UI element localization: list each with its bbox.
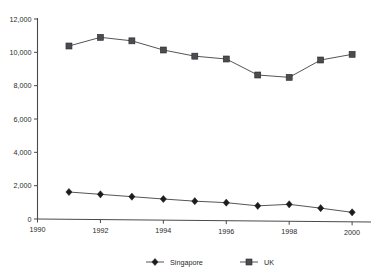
data-point-marker	[318, 205, 324, 212]
data-point-marker	[223, 199, 229, 206]
y-tick-label: 4,000	[14, 148, 32, 157]
data-point-marker	[255, 202, 261, 209]
y-tick-label: 0	[28, 215, 32, 224]
data-point-marker	[286, 74, 292, 80]
series-line	[69, 37, 352, 77]
series-uk	[66, 34, 355, 80]
y-tick-label: 6,000	[14, 115, 32, 124]
legend-label: Singapore	[170, 258, 203, 267]
y-tick-label: 10,000	[10, 48, 32, 57]
data-point-marker	[223, 56, 229, 62]
data-point-marker	[286, 201, 292, 208]
data-point-marker	[318, 57, 324, 63]
series-singapore	[66, 188, 355, 216]
data-point-marker	[160, 195, 166, 202]
data-point-marker	[97, 191, 103, 198]
x-tick-label: 1992	[92, 226, 108, 235]
data-point-marker	[97, 34, 103, 40]
x-axis: 199019921994199619982000	[30, 219, 372, 237]
data-point-marker	[129, 38, 135, 44]
data-point-marker	[160, 47, 166, 53]
y-tick-label: 2,000	[14, 181, 32, 190]
x-tick-label: 1990	[30, 225, 46, 234]
data-point-marker	[152, 258, 158, 265]
legend-label: UK	[264, 258, 274, 267]
line-chart: 02,0004,0006,0008,00010,00012,000 199019…	[0, 0, 379, 273]
data-point-marker	[349, 209, 355, 216]
data-point-marker	[192, 198, 198, 205]
data-point-marker	[66, 43, 72, 49]
data-point-marker	[129, 193, 135, 200]
legend-item-singapore[interactable]: Singapore	[146, 258, 203, 267]
data-point-marker	[255, 72, 261, 78]
series-line	[69, 192, 352, 212]
x-axis-line	[38, 219, 372, 222]
chart-container: 02,0004,0006,0008,00010,00012,000 199019…	[0, 0, 379, 273]
data-point-marker	[246, 259, 252, 265]
series-layer	[66, 34, 355, 216]
y-tick-label: 8,000	[14, 81, 32, 90]
x-tick-label: 2000	[344, 228, 360, 237]
chart-legend: SingaporeUK	[146, 258, 274, 267]
data-point-marker	[192, 53, 198, 59]
x-tick-label: 1994	[155, 226, 171, 235]
x-tick-label: 1998	[281, 227, 297, 236]
data-point-marker	[66, 188, 72, 195]
y-tick-label: 12,000	[10, 15, 32, 24]
legend-item-uk[interactable]: UK	[240, 258, 274, 267]
y-axis: 02,0004,0006,0008,00010,00012,000	[10, 15, 38, 224]
data-point-marker	[349, 51, 355, 57]
x-tick-label: 1996	[218, 227, 234, 236]
